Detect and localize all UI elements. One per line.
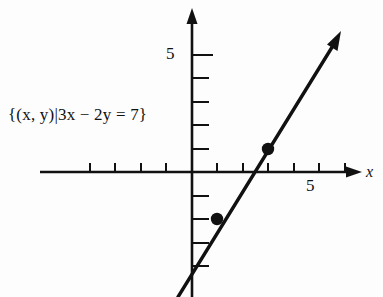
point-marker xyxy=(211,213,223,225)
point-marker xyxy=(262,143,274,155)
set-notation-label: {(x, y)|3x − 2y = 7} xyxy=(8,105,147,125)
x-axis-tick-label-5: 5 xyxy=(306,176,315,196)
x-axis-label: x xyxy=(366,163,373,181)
y-axis-tick-label-5: 5 xyxy=(166,44,175,64)
coordinate-plane-figure xyxy=(0,0,383,297)
